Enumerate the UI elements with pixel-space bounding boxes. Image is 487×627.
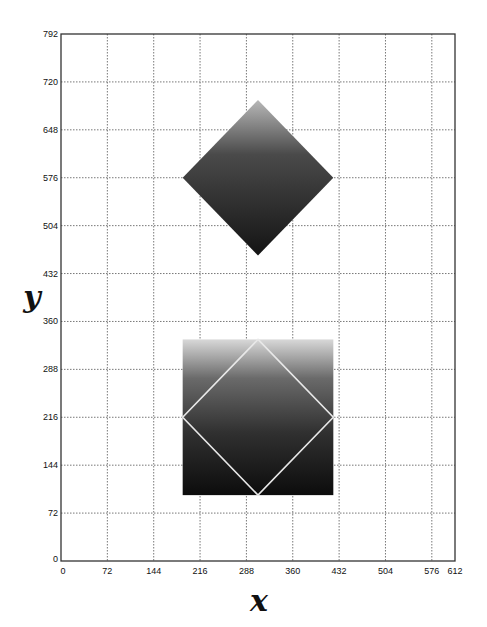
y-tick-label: 288: [43, 364, 58, 374]
y-axis-label: y: [22, 279, 43, 314]
y-tick-label: 0: [53, 554, 58, 564]
x-tick-label: 576: [424, 566, 439, 576]
chart: 072144216288360432504576612 072144216288…: [0, 0, 487, 627]
y-tick-label: 432: [43, 269, 58, 279]
shapes-layer: [183, 100, 334, 495]
diamond-shape: [183, 100, 334, 256]
x-tick-labels: 072144216288360432504576612: [60, 566, 462, 576]
y-tick-labels: 072144216288360432504576648720792: [43, 29, 58, 564]
y-tick-label: 72: [48, 508, 58, 518]
y-tick-label: 720: [43, 77, 58, 87]
y-tick-label: 360: [43, 316, 58, 326]
y-tick-label: 216: [43, 412, 58, 422]
x-tick-label: 612: [447, 566, 462, 576]
x-tick-label: 216: [193, 566, 208, 576]
x-tick-label: 0: [60, 566, 65, 576]
y-tick-label: 504: [43, 221, 58, 231]
x-tick-label: 288: [239, 566, 254, 576]
x-axis-label: x: [249, 583, 269, 618]
y-tick-label: 576: [43, 173, 58, 183]
y-tick-label: 792: [43, 29, 58, 39]
x-tick-label: 432: [332, 566, 347, 576]
x-tick-label: 144: [146, 566, 161, 576]
square-shape: [183, 339, 334, 495]
x-tick-label: 504: [378, 566, 393, 576]
y-tick-label: 648: [43, 125, 58, 135]
y-tick-label: 144: [43, 460, 58, 470]
x-tick-label: 72: [102, 566, 112, 576]
x-tick-label: 360: [285, 566, 300, 576]
